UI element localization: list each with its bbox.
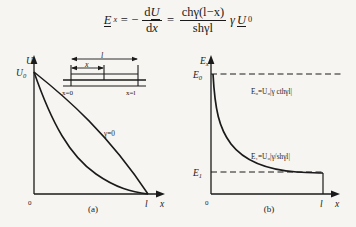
figure-page: Ex =− dU dx = chγ(l−x) shγl γ U0 [0, 0, 356, 227]
panel-b-y-axis-label: Ex [199, 56, 209, 67]
panel-b-caption: (b) [185, 204, 353, 214]
panel-a-svg: U U0 0 l x γ=0 l [8, 52, 178, 220]
panel-a-x-axis-arrow [156, 191, 165, 198]
minus-sign: − [131, 14, 138, 27]
panel-a-caption: (a) [8, 204, 178, 214]
panel-b: Ex E0 E1 0 l x E₀=U₀|γ cthγl| E₁=U₀|γ/sh… [185, 52, 353, 220]
inset-dim-l-arrow-right [132, 57, 138, 61]
voltage-symbol-U: U [237, 14, 246, 28]
panel-a-y-tick-u0: U0 [16, 68, 27, 79]
inset-dim-x-arrow-right [98, 66, 104, 70]
inset-left-edge-label: x=0 [62, 89, 73, 97]
voltage-subscript: 0 [248, 16, 252, 24]
field-symbol-subscript: x [113, 16, 117, 24]
inset-dim-x-label: x [84, 60, 89, 69]
hyperbolic-fraction: chγ(l−x) shγl [180, 6, 226, 35]
equation-row: Ex =− dU dx = chγ(l−x) shγl γ U0 [104, 6, 252, 35]
inset-right-edge-label: x=l [126, 89, 135, 97]
derivative-numerator: dU [142, 6, 161, 21]
panel-b-y-tick-e1: E1 [192, 168, 202, 179]
derivative-denominator: dx [144, 21, 160, 35]
inset-dim-x-arrow-left [71, 66, 77, 70]
panel-a: U U0 0 l x γ=0 l [8, 52, 178, 220]
panel-a-inset: l x x=0 x=l [62, 51, 146, 98]
inset-dim-l-arrow-left [71, 57, 77, 61]
field-symbol-E: E [104, 14, 112, 28]
panel-b-annotation-e1: E₁=U₀|γ/shγl| [251, 152, 290, 161]
panel-b-svg: Ex E0 E1 0 l x E₀=U₀|γ cthγl| E₁=U₀|γ/sh… [185, 52, 353, 220]
gamma-symbol: γ [230, 14, 235, 27]
equals-sign: = [121, 14, 128, 27]
panel-a-curve-annotation: γ=0 [103, 129, 115, 138]
hyperbolic-denominator: shγl [191, 21, 215, 35]
derivative-fraction: dU dx [142, 6, 161, 35]
panel-b-y-tick-e0: E0 [192, 70, 203, 81]
panel-a-y-axis-label: U [26, 56, 34, 66]
equals-sign-2: = [167, 14, 174, 27]
panel-b-annotation-e0: E₀=U₀|γ cthγl| [251, 87, 292, 96]
hyperbolic-numerator: chγ(l−x) [180, 6, 226, 21]
panel-b-x-axis-arrow [331, 191, 340, 198]
equation-block: Ex =− dU dx = chγ(l−x) shγl γ U0 [0, 6, 356, 35]
inset-dim-l-label: l [101, 51, 104, 60]
